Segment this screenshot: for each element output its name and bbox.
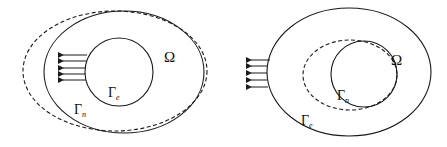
right-outer-gamma-label: Γe bbox=[301, 113, 313, 130]
left-inner-gamma-label: Γe bbox=[108, 85, 120, 102]
two-domain-figure: Ω Γe Γn Ω Γn Γe bbox=[0, 0, 447, 147]
left-omega-label: Ω bbox=[164, 49, 175, 65]
left-outer-gamma-label: Γn bbox=[74, 102, 86, 119]
right-omega-label: Ω bbox=[391, 52, 402, 68]
right-inner-gamma-label: Γn bbox=[337, 88, 349, 105]
diagram-canvas: Ω Γe Γn Ω Γn Γe bbox=[0, 0, 447, 147]
left-traction-arrows bbox=[63, 55, 87, 80]
right-panel: Ω Γn Γe bbox=[251, 8, 431, 136]
left-panel: Ω Γe Γn bbox=[23, 11, 207, 133]
left-deformed-outer-boundary bbox=[23, 11, 207, 131]
right-deformed-inner-boundary bbox=[303, 40, 397, 110]
right-outer-boundary bbox=[267, 8, 431, 136]
left-outer-boundary bbox=[44, 11, 204, 133]
